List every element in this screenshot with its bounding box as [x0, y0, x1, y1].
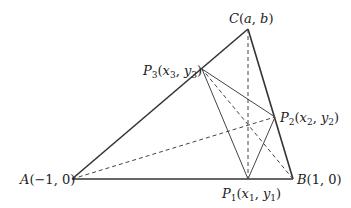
label-a: A(−1, 0) [19, 172, 75, 187]
geometry-diagram: C(a, b) A(−1, 0) B(1, 0) P1(x1, y1) P2(x… [0, 0, 351, 208]
triangle-abc [72, 29, 293, 179]
label-p2: P2(x2, y2) [279, 110, 339, 127]
segment-p3-p1 [202, 69, 248, 179]
side-ca [72, 29, 248, 179]
altitudes [72, 29, 293, 179]
label-c: C(a, b) [229, 11, 273, 26]
segment-p2-p3 [202, 69, 275, 117]
segment-p1-p2 [248, 117, 275, 179]
label-b: B(1, 0) [296, 172, 342, 187]
orthic-triangle [202, 69, 275, 179]
label-p1: P1(x1, y1) [221, 186, 281, 203]
label-p3: P3(x3, y3) [142, 63, 202, 80]
